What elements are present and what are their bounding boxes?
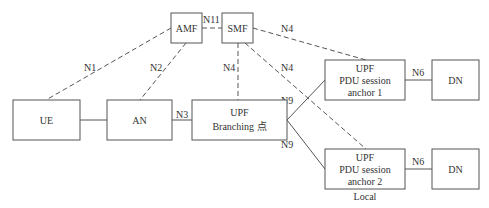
network-architecture-diagram: N1 N2 N11 N4 N4 N4 N3 N9 N9 N6 N6 AMF SM… <box>0 0 489 208</box>
node-an-label: AN <box>132 115 146 126</box>
label-n6-bottom: N6 <box>412 156 424 167</box>
label-n1: N1 <box>84 62 96 73</box>
node-dn1: DN <box>432 60 479 100</box>
node-amf-label: AMF <box>176 23 198 34</box>
label-n4-anchor1: N4 <box>281 23 293 34</box>
node-smf: SMF <box>222 13 253 43</box>
label-n3: N3 <box>176 109 188 120</box>
node-upf-anchor2-caption: Local <box>354 191 377 202</box>
node-an: AN <box>107 100 172 140</box>
edge-n4-anchor1 <box>253 28 366 60</box>
edge-n2 <box>140 43 186 100</box>
label-n4-branch: N4 <box>223 62 235 73</box>
node-ue: UE <box>13 100 80 140</box>
label-n4-anchor2: N4 <box>281 62 293 73</box>
label-n9-bottom: N9 <box>281 139 293 150</box>
node-dn2-label: DN <box>448 164 462 175</box>
node-smf-label: SMF <box>227 23 247 34</box>
node-upf-anchor2-line3: anchor 2 <box>348 176 383 187</box>
node-upf-anchor1: UPF PDU session anchor 1 <box>325 60 405 100</box>
node-amf: AMF <box>171 13 202 43</box>
node-ue-label: UE <box>40 115 53 126</box>
node-dn2: DN <box>432 149 479 189</box>
node-upf-branching-line1: UPF <box>230 107 249 118</box>
node-upf-anchor1-line3: anchor 1 <box>348 87 383 98</box>
node-upf-branching-line2: Branching 点 <box>212 121 266 132</box>
node-upf-anchor1-line1: UPF <box>356 63 375 74</box>
node-upf-anchor2: UPF PDU session anchor 2 <box>325 149 405 189</box>
label-n6-top: N6 <box>412 67 424 78</box>
node-upf-anchor2-line1: UPF <box>356 152 375 163</box>
node-upf-anchor1-line2: PDU session <box>339 75 390 86</box>
node-dn1-label: DN <box>448 75 462 86</box>
node-upf-anchor2-line2: PDU session <box>339 164 390 175</box>
label-n2: N2 <box>150 62 162 73</box>
label-n11: N11 <box>203 14 220 25</box>
node-upf-branching: UPF Branching 点 <box>192 100 287 140</box>
